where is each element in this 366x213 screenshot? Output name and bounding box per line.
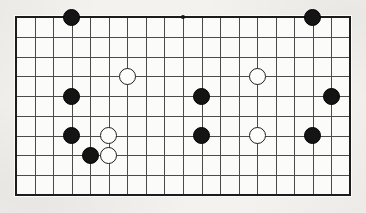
hoshi-top-icon: [181, 15, 185, 19]
screenshot-root: Cropped view of a Go board showing a 19-…: [0, 0, 366, 213]
grid-line-vertical: [202, 17, 203, 195]
grid-line-vertical: [276, 17, 277, 195]
grid-line-vertical: [72, 17, 73, 195]
grid-line-vertical: [164, 17, 165, 195]
grid-line-vertical: [35, 17, 36, 195]
grid-line-vertical: [294, 17, 295, 195]
grid-line-vertical: [90, 17, 91, 195]
stone-white-c6-r3[interactable]: [119, 68, 136, 85]
stone-black-c16-r0[interactable]: [304, 9, 321, 26]
board-edge-vertical: [349, 16, 351, 196]
grid-line-vertical: [239, 17, 240, 195]
grid-line-vertical: [331, 17, 332, 195]
board-edge-horizontal: [15, 194, 351, 196]
stone-black-c4-r7[interactable]: [82, 147, 99, 164]
grid-line-vertical: [109, 17, 110, 195]
stone-black-c3-r4[interactable]: [63, 88, 80, 105]
stone-white-c13-r6[interactable]: [249, 127, 266, 144]
grid-line-vertical: [183, 17, 184, 195]
stone-white-c13-r3[interactable]: [249, 68, 266, 85]
grid-line-vertical: [220, 17, 221, 195]
grid-line-vertical: [313, 17, 314, 195]
board-edge-vertical: [15, 16, 17, 196]
go-board[interactable]: [14, 15, 352, 197]
grid-line-vertical: [127, 17, 128, 195]
grid-line-vertical: [146, 17, 147, 195]
grid-line-vertical: [257, 17, 258, 195]
stone-black-c3-r0[interactable]: [63, 9, 80, 26]
grid-line-vertical: [53, 17, 54, 195]
stone-black-c17-r4[interactable]: [323, 88, 340, 105]
stone-black-c10-r4[interactable]: [193, 88, 210, 105]
